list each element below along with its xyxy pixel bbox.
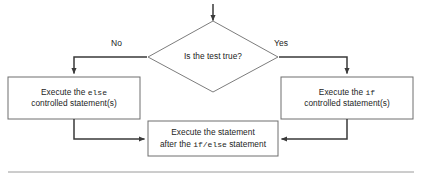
else-to-merge-connector bbox=[74, 119, 145, 139]
decision-diamond bbox=[148, 21, 278, 92]
process-box-after bbox=[148, 121, 278, 156]
process-box-else bbox=[8, 77, 140, 119]
flowchart-connectors bbox=[0, 0, 422, 182]
branch-label-no: No bbox=[111, 38, 122, 48]
no-branch-connector bbox=[74, 57, 147, 74]
flowchart-diagram: Is the test true? No Yes Execute the els… bbox=[0, 0, 422, 182]
if-to-merge-connector bbox=[282, 119, 348, 139]
yes-branch-connector bbox=[279, 57, 347, 74]
branch-label-yes: Yes bbox=[274, 38, 288, 48]
process-box-if bbox=[281, 77, 413, 119]
